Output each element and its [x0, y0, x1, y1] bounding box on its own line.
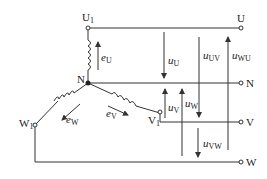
label-w: W: [246, 157, 256, 168]
label-n: N: [246, 78, 254, 89]
label-u1: U1: [82, 12, 94, 23]
label-eu: eU: [101, 52, 112, 63]
label-n-junction: N: [77, 74, 85, 85]
label-uuv: uUV: [203, 50, 220, 61]
label-ev: eV: [106, 108, 117, 119]
label-u: U: [237, 13, 245, 24]
label-v1: V1: [148, 115, 160, 126]
coil-w-icon: [54, 91, 74, 101]
terminal-n: [239, 81, 243, 85]
coil-u-icon: [88, 40, 91, 70]
terminal-w1: [33, 123, 37, 127]
terminal-u1: [86, 26, 90, 30]
label-uwu: uWU: [232, 50, 251, 61]
star-connection-diagram: [0, 0, 267, 179]
label-w1: W1: [19, 118, 33, 129]
coil-v-icon: [112, 93, 136, 106]
label-uvw: uVW: [203, 138, 222, 149]
label-uv: uV: [168, 102, 179, 113]
terminal-u: [239, 26, 243, 30]
neutral-junction-dot: [86, 81, 91, 86]
terminal-v: [239, 120, 243, 124]
label-uu: uU: [168, 55, 179, 66]
label-ew: eW: [66, 114, 78, 125]
terminal-w: [239, 160, 243, 164]
label-uw: uW: [185, 98, 198, 109]
label-v: V: [246, 117, 254, 128]
terminal-v1: [158, 110, 162, 114]
